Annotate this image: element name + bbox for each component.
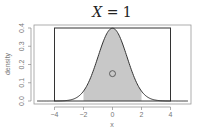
x-axis-label: x — [110, 121, 114, 128]
y-axis-label: density — [4, 52, 12, 75]
y-axis: 0.00.10.20.30.4 — [18, 23, 31, 106]
shaded-area — [84, 28, 142, 101]
x-tick-label: 2 — [140, 111, 144, 118]
x-tick-label: −2 — [80, 111, 88, 118]
chart: X = 1 −4−2024 0.00.10.20.30.4 x density — [0, 0, 202, 130]
y-tick-label: 0.1 — [18, 78, 25, 88]
chart-title: X = 1 — [91, 4, 132, 20]
x-tick-label: 0 — [111, 111, 115, 118]
x-tick-label: 4 — [169, 111, 173, 118]
y-tick-label: 0.2 — [18, 60, 25, 70]
y-tick-label: 0.0 — [18, 96, 25, 106]
y-tick-label: 0.3 — [18, 41, 25, 51]
x-axis: −4−2024 — [51, 107, 173, 118]
y-tick-label: 0.4 — [18, 23, 25, 33]
x-tick-label: −4 — [51, 111, 59, 118]
